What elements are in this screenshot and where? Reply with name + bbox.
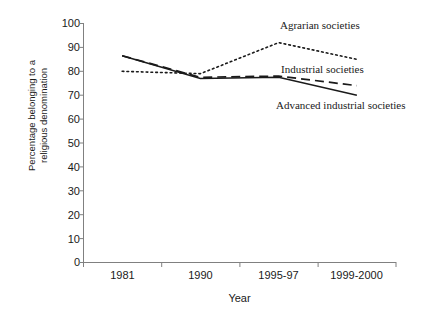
x-tick-label-1999-2000: 1999-2000 — [317, 269, 396, 281]
x-tick-label-1995-97: 1995-97 — [239, 269, 318, 281]
annotation-advanced-industrial-societies: Advanced industrial societies — [276, 99, 406, 111]
y-tick-marks — [79, 24, 83, 263]
chart-container: Percentage belonging to a religious deno… — [0, 0, 429, 321]
annotation-agrarian-societies: Agrarian societies — [280, 19, 360, 31]
x-axis-title: Year — [83, 292, 396, 304]
x-tick-label-1981: 1981 — [83, 269, 162, 281]
series-line-advanced-industrial-societies — [122, 56, 357, 95]
x-tick-label-1990: 1990 — [161, 269, 240, 281]
annotation-industrial-societies: Industrial societies — [281, 63, 364, 75]
